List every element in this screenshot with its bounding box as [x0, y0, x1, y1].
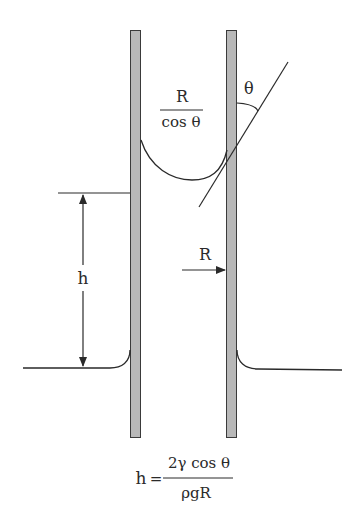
outer-surface-left	[23, 350, 130, 368]
formula-denominator: ρgR	[181, 484, 211, 502]
formula-lhs: h	[136, 468, 147, 488]
radius-fraction-numerator: R	[176, 87, 189, 106]
right-tube-wall	[227, 31, 237, 438]
meniscus-curve	[141, 140, 227, 180]
radius-label: R	[199, 245, 212, 264]
formula-equals: =	[150, 470, 163, 488]
outer-surface-right	[237, 350, 342, 370]
theta-label: θ	[244, 79, 254, 98]
formula-numerator: 2γ cos θ	[168, 454, 230, 472]
height-label: h	[78, 268, 89, 288]
left-tube-wall	[131, 31, 141, 438]
capillary-diagram: θ R cos θ h R h = 2γ cos θ ρgR	[0, 0, 359, 531]
theta-angle-arc	[237, 103, 258, 111]
radius-fraction-denominator: cos θ	[162, 113, 201, 131]
